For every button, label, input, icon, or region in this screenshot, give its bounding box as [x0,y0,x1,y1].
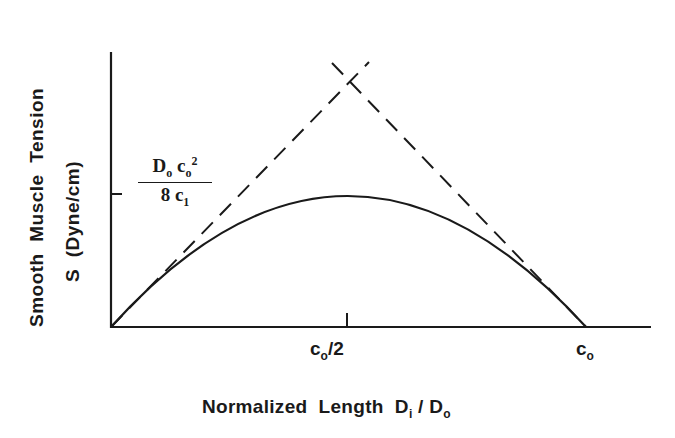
tick-half-c: c [310,338,321,359]
num-c-sub: o [185,166,191,180]
tension-curve [111,196,586,327]
den-sub: 1 [183,195,189,209]
tick-full-sub: o [587,349,594,363]
num-c: c [172,155,185,176]
num-D: D [153,155,167,176]
tick-half-rest: /2 [328,338,344,359]
x-tick-label-half: co/2 [310,338,344,363]
num-exp: 2 [191,154,197,168]
tick-half-sub: o [321,349,328,363]
y-axis-label-line2: S (Dyne/cm) [62,161,84,282]
xlabel-sep: / D [413,396,444,417]
y-axis-label-line1: Smooth Muscle Tension [26,88,48,327]
plot-area [0,0,675,438]
x-axis-label: Normalized Length Di / Do [202,396,451,421]
fraction-numerator: Do co2 [138,154,212,183]
fraction-denominator: 8 c1 [138,183,212,210]
x-tick-label-full: co [576,338,594,363]
xlabel-sub-o: o [443,407,451,421]
xlabel-main: Normalized Length D [202,396,409,417]
tick-full-c: c [576,338,587,359]
den-main: 8 c [161,184,184,205]
y-tick-label-max: Do co2 8 c1 [138,154,212,210]
